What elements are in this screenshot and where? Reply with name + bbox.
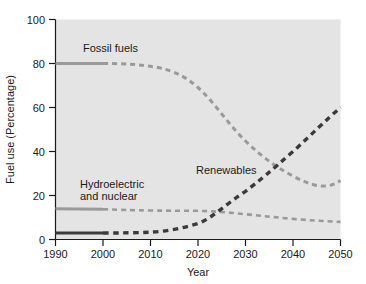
y-axis-title: Fuel use (Percentage) (4, 75, 16, 184)
hydro-nuclear-observed-line (56, 209, 104, 210)
series-label-renewables: Renewables (196, 164, 257, 176)
x-tick-label-1990: 1990 (43, 248, 67, 260)
y-tick-label-80: 80 (33, 58, 45, 70)
y-tick-label-40: 40 (33, 146, 45, 158)
line-chart-svg: 0 20 40 60 80 100 1990 2000 2010 2020 20… (0, 0, 366, 284)
series-label-fossil-fuels: Fossil fuels (83, 42, 139, 54)
x-axis-title: Year (187, 266, 210, 278)
x-tick-label-2040: 2040 (281, 248, 305, 260)
y-tick-label-100: 100 (27, 14, 45, 26)
chart-figure: 0 20 40 60 80 100 1990 2000 2010 2020 20… (0, 0, 366, 284)
x-tick-label-2020: 2020 (186, 248, 210, 260)
y-tick-label-0: 0 (39, 234, 45, 246)
series-label-hydro-line2: and nuclear (80, 190, 138, 202)
x-tick-label-2030: 2030 (233, 248, 257, 260)
x-tick-label-2050: 2050 (328, 248, 352, 260)
x-tick-label-2000: 2000 (91, 248, 115, 260)
y-tick-label-60: 60 (33, 102, 45, 114)
y-tick-label-20: 20 (33, 190, 45, 202)
x-tick-label-2010: 2010 (138, 248, 162, 260)
series-label-hydro-line1: Hydroelectric (80, 178, 145, 190)
